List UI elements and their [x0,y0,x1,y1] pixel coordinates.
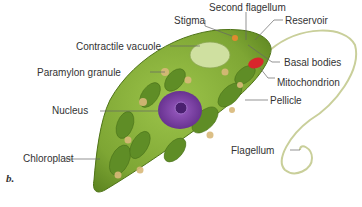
label-stigma: Stigma [174,15,205,26]
stigma-shape [232,35,238,41]
label-flagellum: Flagellum [231,145,274,156]
label-pellicle: Pellicle [270,95,302,106]
label-contractile-vacuole: Contractile vacuole [76,41,161,52]
panel-letter: b. [6,172,14,184]
label-paramylon-granule: Paramylon granule [37,67,121,78]
label-second-flagellum: Second flagellum [209,2,286,13]
label-mitochondrion: Mitochondrion [277,77,340,88]
label-reservoir: Reservoir [285,15,328,26]
euglena-diagram: Stigma Second flagellum Reservoir Contra… [0,0,362,207]
label-basal-bodies: Basal bodies [284,57,341,68]
label-nucleus: Nucleus [52,105,88,116]
euglena-illustration [0,0,362,207]
label-chloroplast: Chloroplast [23,153,74,164]
